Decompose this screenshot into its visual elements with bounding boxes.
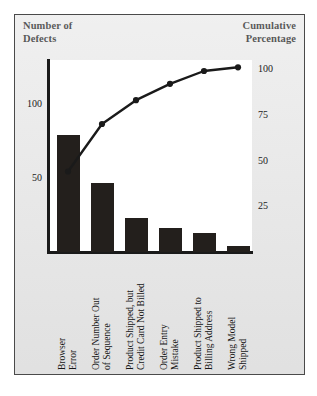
- category-label-2-line2: Credit Card Not Billed: [136, 283, 147, 370]
- category-label-2-line1: Product Shipped, but: [125, 290, 135, 370]
- category-label-3-line1: Order Entry: [159, 324, 169, 370]
- category-label-1-line1: Order Number Out: [91, 298, 101, 370]
- left-tick-100: 100: [27, 98, 42, 109]
- y-axis-line: [47, 59, 50, 253]
- bar-0: [57, 135, 80, 252]
- pareto-chart-figure: Number of Defects Cumulative Percentage …: [0, 0, 317, 396]
- category-label-4-line1: Product Shipped to: [193, 297, 203, 370]
- left-axis-ticks: 50100: [0, 0, 42, 396]
- bar-3: [159, 228, 182, 252]
- right-axis-ticks: 255075100: [258, 0, 308, 396]
- right-tick-50: 50: [258, 155, 268, 166]
- category-label-5: Wrong ModelShipped: [227, 317, 249, 370]
- category-label-1: Order Number Outof Sequence: [91, 298, 113, 370]
- right-tick-75: 75: [258, 109, 268, 120]
- left-tick-50: 50: [32, 172, 42, 183]
- right-tick-25: 25: [258, 200, 268, 211]
- category-label-1-line2: of Sequence: [102, 298, 113, 370]
- bar-2: [125, 218, 148, 252]
- category-label-5-line2: Shipped: [238, 317, 249, 370]
- category-label-4: Product Shipped toBilling Address: [193, 297, 215, 370]
- category-label-5-line1: Wrong Model: [227, 317, 237, 370]
- bar-1: [91, 183, 114, 252]
- category-label-3: Order EntryMistake: [159, 324, 181, 370]
- category-label-0-line1: Browser: [57, 338, 67, 370]
- right-tick-100: 100: [258, 63, 273, 74]
- bar-4: [193, 233, 216, 252]
- category-label-3-line2: Mistake: [170, 324, 181, 370]
- category-label-4-line2: Billing Address: [204, 297, 215, 370]
- category-label-0: BrowserError: [57, 338, 79, 370]
- category-label-0-line2: Error: [68, 338, 79, 370]
- category-label-2: Product Shipped, butCredit Card Not Bill…: [125, 283, 147, 370]
- bar-5: [227, 246, 250, 252]
